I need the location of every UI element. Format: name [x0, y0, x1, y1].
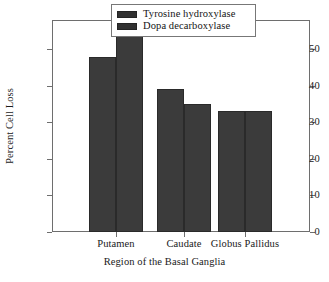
x-axis-title: Region of the Basal Ganglia: [0, 256, 329, 267]
legend-item-tyrosine-hydroxylase: Tyrosine hydroxylase: [117, 8, 250, 20]
plot-area: [52, 20, 310, 232]
y-tick-mark: [47, 86, 52, 87]
x-tick-mark: [116, 232, 117, 237]
y-axis-title: Percent Cell Loss: [4, 88, 15, 164]
chart-legend: Tyrosine hydroxylase Dopa decarboxylase: [111, 4, 256, 37]
y-tick-mark: [47, 122, 52, 123]
x-category-label: Putamen: [97, 238, 134, 249]
legend-item-dopa-decarboxylase: Dopa decarboxylase: [117, 20, 250, 32]
x-category-label: Caudate: [166, 238, 201, 249]
legend-label: Dopa decarboxylase: [143, 20, 230, 32]
x-tick-mark: [245, 232, 246, 237]
bar: [89, 57, 116, 232]
y-tick-label: 40: [309, 81, 320, 92]
bar: [157, 89, 184, 232]
bar: [218, 111, 245, 232]
legend-swatch-icon: [117, 23, 137, 30]
y-tick-label: 20: [309, 154, 320, 165]
x-tick-mark: [184, 232, 185, 237]
y-tick-label: 0: [315, 227, 320, 238]
y-tick-label: 10: [309, 190, 320, 201]
y-tick-label: 50: [309, 44, 320, 55]
bar: [245, 111, 272, 232]
y-tick-label: 30: [309, 117, 320, 128]
y-tick-mark: [47, 159, 52, 160]
legend-label: Tyrosine hydroxylase: [143, 8, 236, 20]
bar-chart-figure: 01020304050 PutamenCaudateGlobus Pallidu…: [0, 0, 329, 282]
bar: [184, 104, 211, 232]
y-tick-mark: [47, 232, 52, 233]
bar: [116, 35, 143, 232]
y-tick-mark: [47, 49, 52, 50]
x-category-label: Globus Pallidus: [211, 238, 279, 249]
y-tick-mark: [47, 195, 52, 196]
legend-swatch-icon: [117, 11, 137, 18]
